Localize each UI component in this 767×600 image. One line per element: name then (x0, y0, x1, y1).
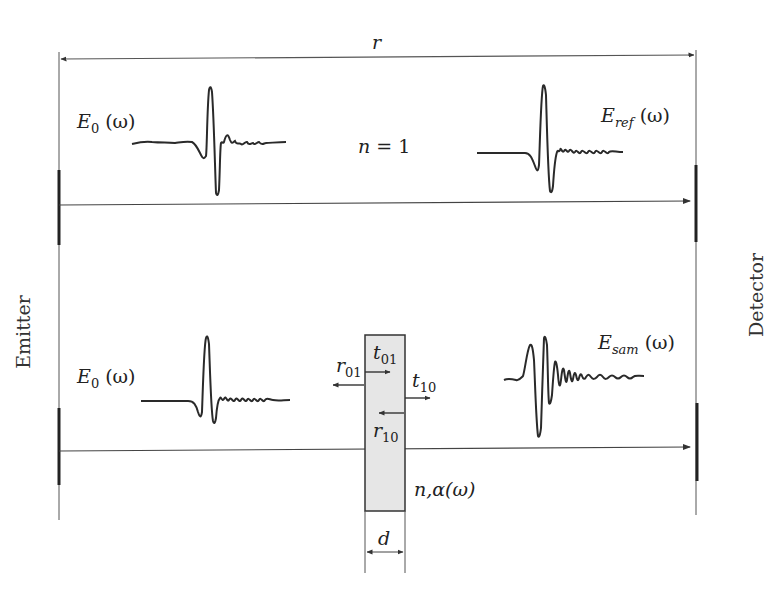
detector-line (696, 50, 697, 515)
t10-label: t10 (412, 371, 436, 394)
thickness-label: d (378, 529, 390, 548)
waveform-e0-sample (141, 336, 290, 423)
detector-label: Detector (747, 211, 766, 295)
reference-output-field-label: Eref (ω) (601, 106, 670, 129)
r10-label: r10 (373, 421, 399, 444)
t01-label: t01 (373, 343, 397, 366)
distance-label: r (372, 33, 381, 52)
reference-input-field-label: E0 (ω) (77, 112, 136, 135)
r01-label: r01 (336, 356, 362, 379)
emitter-label: Emitter (14, 258, 33, 332)
sample-properties-label: n,α(ω) (414, 480, 475, 499)
waveform-e0-reference (132, 87, 286, 195)
medium-label: n = 1 (358, 137, 410, 156)
reference-beam-arrow (59, 201, 690, 205)
sample-input-field-label: E0 (ω) (77, 367, 136, 390)
distance-dimension-arrow (61, 55, 694, 59)
sample-output-field-label: Esam (ω) (598, 333, 675, 356)
waveform-e-ref (477, 85, 623, 192)
